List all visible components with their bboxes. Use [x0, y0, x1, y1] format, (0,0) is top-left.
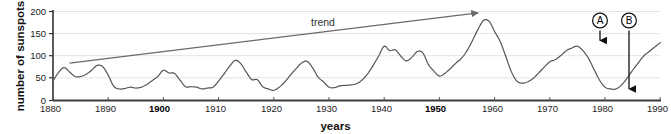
- x-tick-label-1910: 1910: [205, 103, 226, 114]
- x-tick-label-1990: 1990: [647, 103, 668, 114]
- gridlines: [53, 12, 660, 78]
- sunspot-chart: number of sunspots years 200 150 100 50 …: [0, 0, 671, 134]
- x-tick-label-1920: 1920: [261, 103, 282, 114]
- x-tick-label-1900: 1900: [149, 103, 170, 114]
- marker-b-label: B: [622, 14, 636, 28]
- x-tick-label-1930: 1930: [316, 103, 337, 114]
- x-tick-label-1980: 1980: [592, 103, 613, 114]
- x-tick-label-1970: 1970: [537, 103, 558, 114]
- x-tick-label-1940: 1940: [371, 103, 392, 114]
- y-tick-label-100: 100: [22, 50, 46, 61]
- x-tick-label-1880: 1880: [40, 103, 61, 114]
- y-tick-label-50: 50: [22, 72, 46, 83]
- y-tick-label-200: 200: [22, 6, 46, 17]
- marker-a-label: A: [593, 14, 607, 28]
- sunspot-series-line: [53, 20, 660, 91]
- x-tick-label-1960: 1960: [482, 103, 503, 114]
- x-tick-label-1950: 1950: [425, 103, 446, 114]
- x-axis-title: years: [0, 120, 671, 132]
- y-tick-label-150: 150: [22, 28, 46, 39]
- x-tick-label-1890: 1890: [95, 103, 116, 114]
- trend-label: trend: [311, 16, 335, 28]
